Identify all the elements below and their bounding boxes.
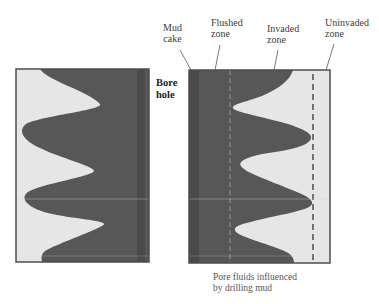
flushed-zone-label: Flushed zone: [211, 17, 243, 39]
flushed-zone-label-line2: zone: [211, 28, 243, 39]
invasion-profile-diagram: [0, 0, 379, 304]
bore-hole-label: Bore hole: [156, 77, 177, 101]
invaded-zone-leader: [274, 50, 278, 70]
caption-line1: Pore fluids influenced: [213, 272, 297, 283]
left-panel-undisturbed: [16, 69, 149, 262]
mud-cake-label-line2: cake: [163, 33, 182, 44]
invaded-zone-label: Invaded zone: [267, 23, 299, 45]
mud-cake-label-line1: Mud: [163, 22, 182, 33]
right-panel-invaded: [189, 70, 330, 263]
mud-cake-strip: [189, 70, 199, 263]
invaded-zone-label-line1: Invaded: [267, 23, 299, 34]
uninvaded-zone-label: Uninvaded zone: [325, 17, 369, 39]
uninvaded-zone-leader: [326, 44, 334, 70]
bore-hole-label-line1: Bore: [156, 77, 177, 89]
flushed-zone-label-line1: Flushed: [211, 17, 243, 28]
bore-hole-label-line2: hole: [156, 89, 177, 101]
uninvaded-zone-label-line2: zone: [325, 28, 369, 39]
invaded-zone-label-line2: zone: [267, 34, 299, 45]
leader-lines: [180, 44, 334, 70]
mud-cake-leader: [180, 50, 191, 70]
flushed-zone-leader: [215, 45, 220, 70]
caption-line2: by drilling mud: [213, 283, 297, 294]
pore-fluids-caption: Pore fluids influenced by drilling mud: [213, 272, 297, 294]
mud-cake-label: Mud cake: [163, 22, 182, 44]
uninvaded-zone-label-line1: Uninvaded: [325, 17, 369, 28]
borehole-wall-strip: [137, 69, 145, 262]
